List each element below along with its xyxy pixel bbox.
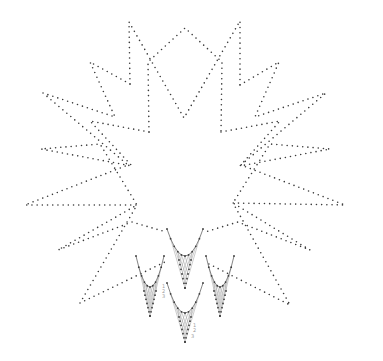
motif-left bbox=[135, 255, 165, 317]
string-art-motifs bbox=[135, 228, 235, 343]
star-path-top-outer bbox=[129, 21, 240, 118]
star-path-right-outer bbox=[205, 62, 345, 305]
star-outline bbox=[25, 21, 345, 305]
pattern-canvas: 123123 bbox=[0, 0, 383, 361]
star-path-top-inner bbox=[148, 28, 222, 132]
motif-bottom bbox=[166, 282, 204, 343]
star-path-left-outer bbox=[25, 62, 165, 303]
stitch-number: 3 bbox=[191, 333, 194, 339]
star-path-left-inner bbox=[41, 121, 166, 250]
motif-top bbox=[166, 228, 204, 289]
star-path-right-inner bbox=[205, 121, 330, 250]
stitch-number: 3 bbox=[162, 293, 165, 299]
